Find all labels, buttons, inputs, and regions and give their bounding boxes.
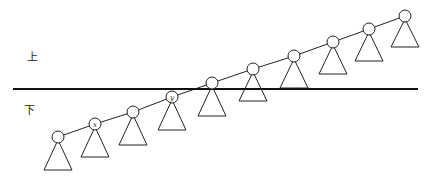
tree-node: y xyxy=(166,91,178,103)
node-circle xyxy=(52,131,64,143)
node-circle xyxy=(327,36,339,48)
subtree-triangle xyxy=(119,117,147,145)
node-circle xyxy=(363,23,375,35)
subtree-triangle xyxy=(158,102,186,130)
subtree-triangle xyxy=(81,129,109,157)
tree-node xyxy=(206,77,218,89)
tree-node xyxy=(363,23,375,35)
node-circle xyxy=(127,106,139,118)
tree-node xyxy=(52,131,64,143)
subtree-triangle xyxy=(319,47,347,74)
tree-node xyxy=(327,36,339,48)
subtree-triangle xyxy=(44,142,72,170)
tree-node xyxy=(399,10,411,22)
tree-node xyxy=(127,106,139,118)
spine-path xyxy=(58,16,405,137)
tree-node: x xyxy=(89,118,101,130)
node-circle xyxy=(206,77,218,89)
node-circle xyxy=(399,10,411,22)
tree-node xyxy=(247,63,259,75)
subtrees xyxy=(44,21,419,170)
node-circle xyxy=(247,63,259,75)
spine-tree-diagram: xy xyxy=(0,0,429,180)
subtree-triangle xyxy=(239,74,267,101)
subtree-triangle xyxy=(391,21,419,47)
node-label: x xyxy=(93,121,97,129)
node-circle xyxy=(288,50,300,62)
subtree-triangle xyxy=(280,61,308,88)
subtree-triangle xyxy=(198,88,226,116)
subtree-triangle xyxy=(355,34,383,61)
tree-node xyxy=(288,50,300,62)
spine-line xyxy=(58,16,405,137)
